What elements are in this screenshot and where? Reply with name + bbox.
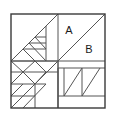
region-label-b: B bbox=[85, 43, 92, 55]
diagram-canvas: A B bbox=[0, 0, 115, 120]
quilt-block-figure: A B bbox=[0, 0, 115, 120]
region-label-a: A bbox=[65, 24, 73, 36]
